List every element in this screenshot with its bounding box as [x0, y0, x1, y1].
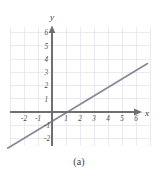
- x-tick-label: -2: [21, 115, 27, 123]
- x-tick-label: 2: [78, 115, 82, 123]
- y-tick-labels: 6 5 4 3 2 1 -1 -2: [43, 29, 50, 143]
- x-axis-label: x: [144, 108, 149, 118]
- y-tick-label: 2: [44, 82, 48, 90]
- y-tick-label: 4: [44, 56, 48, 64]
- y-tick-label: 3: [43, 69, 48, 77]
- y-axis-arrow-icon: [49, 26, 56, 34]
- x-tick-label: 1: [64, 115, 68, 123]
- coordinate-plane-graph: -2 -1 1 2 3 4 5 6 6 5 4 3 2 1 -1 -2 y x: [0, 0, 158, 176]
- x-tick-label: 5: [120, 115, 124, 123]
- y-axis-label: y: [49, 12, 54, 22]
- x-tick-label: 4: [106, 115, 110, 123]
- x-tick-label: 6: [134, 115, 138, 123]
- x-tick-labels: -2 -1 1 2 3 4 5 6: [21, 115, 138, 123]
- y-tick-label: 1: [44, 96, 48, 104]
- y-tick-label: -2: [44, 135, 50, 143]
- figure-caption: (a): [0, 156, 158, 168]
- grid-lines: [10, 27, 150, 146]
- x-tick-label: -1: [35, 115, 41, 123]
- line-segment: [8, 64, 148, 149]
- figure-panel: -2 -1 1 2 3 4 5 6 6 5 4 3 2 1 -1 -2 y x …: [0, 0, 158, 176]
- y-tick-label: 5: [44, 43, 48, 51]
- y-tick-label: 6: [44, 29, 48, 37]
- y-tick-label: -1: [44, 122, 50, 130]
- x-tick-label: 3: [91, 115, 96, 123]
- plotted-line-series: [8, 64, 148, 149]
